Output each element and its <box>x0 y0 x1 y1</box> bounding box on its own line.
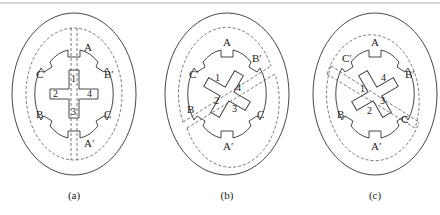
pole-label-A: A <box>371 36 379 48</box>
rotor-tooth-3: 3 <box>71 106 76 117</box>
flux-lines <box>71 28 77 160</box>
caption-b: (b) <box>221 189 234 202</box>
caption-c: (c) <box>369 189 382 202</box>
pole-label-B-prime: B′ <box>405 68 415 80</box>
rotor-tooth-2: 2 <box>367 105 372 116</box>
pole-label-A: A <box>223 36 231 48</box>
flux-path-dashed-lower <box>187 74 279 167</box>
rotor-tooth-1: 1 <box>71 73 76 84</box>
flux-path-dashed <box>26 28 122 160</box>
pole-label-A-prime: A′ <box>371 140 381 152</box>
panel-c: A A′ B′ C C′ B 1 2 3 4 <box>313 13 437 175</box>
pole-label-C: C <box>104 108 111 120</box>
stepper-motor-figure: A A′ B′ C C′ B 1 2 3 4 (a) A A′ B′ C C′ … <box>0 0 440 215</box>
pole-label-B: B <box>36 108 43 120</box>
pole-label-C-prime: C′ <box>189 68 199 80</box>
pole-label-C: C <box>257 108 264 120</box>
panel-a: A A′ B′ C C′ B 1 2 3 4 <box>12 13 136 175</box>
rotor-tooth-2: 2 <box>53 88 58 99</box>
stator-poles <box>35 50 113 138</box>
pole-label-C-prime: C′ <box>342 52 352 64</box>
pole-label-B: B <box>337 108 344 120</box>
pole-label-B-prime: B′ <box>104 68 114 80</box>
rotor-tooth-3: 3 <box>380 95 385 106</box>
rotor-tooth-2: 2 <box>214 95 219 106</box>
rotor-tooth-4: 4 <box>381 72 386 83</box>
rotor-tooth-4: 4 <box>87 88 92 99</box>
pole-label-A-prime: A′ <box>223 140 233 152</box>
rotor-tooth-1: 1 <box>360 83 365 94</box>
rotor-tooth-3: 3 <box>232 103 237 114</box>
rotor-tooth-4: 4 <box>236 82 241 93</box>
pole-label-C-prime: C′ <box>36 68 46 80</box>
outer-stator-ellipse <box>12 13 136 175</box>
pole-label-B-prime: B′ <box>252 52 262 64</box>
pole-label-A: A <box>84 41 92 53</box>
panel-b: A A′ B′ C C′ B 1 2 3 4 <box>165 13 289 175</box>
caption-a: (a) <box>68 189 81 202</box>
pole-label-B: B <box>187 103 194 115</box>
pole-label-A-prime: A′ <box>84 137 94 149</box>
pole-label-C: C <box>401 113 408 125</box>
rotor-tooth-1: 1 <box>215 72 220 83</box>
